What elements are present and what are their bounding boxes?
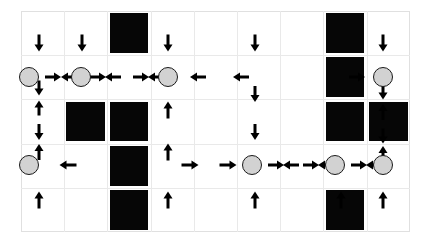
grid-world-canvas <box>0 0 424 244</box>
agent-marker[interactable] <box>19 155 39 175</box>
agent-marker[interactable] <box>19 67 39 87</box>
agent-marker[interactable] <box>325 155 345 175</box>
agents-and-arrows-layer <box>0 0 424 244</box>
agent-marker[interactable] <box>158 67 178 87</box>
agent-marker[interactable] <box>373 155 393 175</box>
agent-marker[interactable] <box>242 155 262 175</box>
agent-marker[interactable] <box>71 67 91 87</box>
agent-marker[interactable] <box>373 67 393 87</box>
